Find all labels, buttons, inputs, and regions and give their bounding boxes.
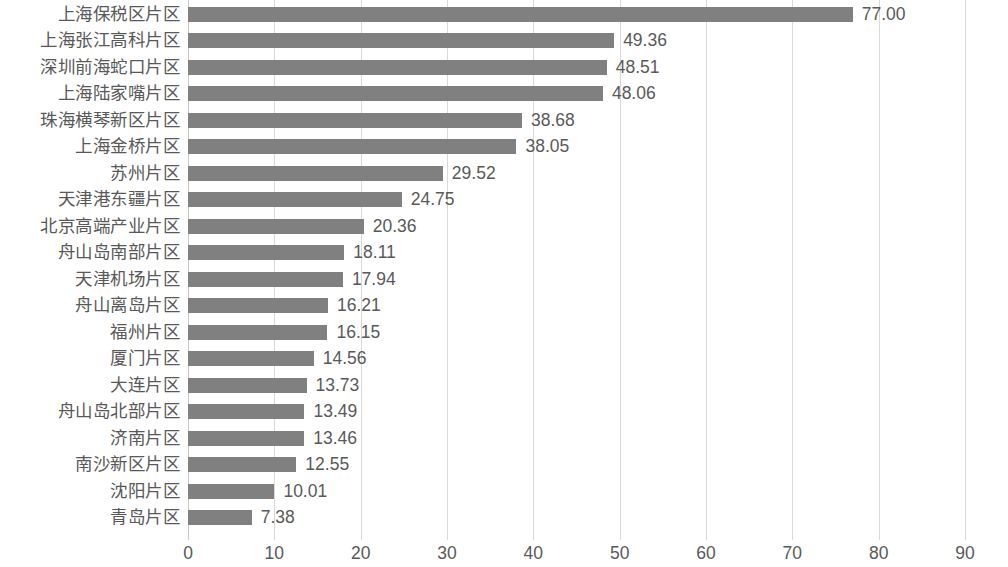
category-label: 舟山离岛片区 [75,293,182,320]
bar-value-label: 24.75 [411,191,455,209]
bar-row: 38.05 [188,134,965,161]
category-label: 珠海横琴新区片区 [40,107,182,134]
plot-area: 77.0049.3648.5148.0638.6838.0529.5224.75… [188,0,965,540]
x-tick-label: 50 [610,545,629,563]
bar [188,60,607,75]
bar-row: 16.21 [188,293,965,320]
category-label: 上海金桥片区 [75,134,182,161]
category-label: 福州片区 [110,319,182,346]
bar-row: 13.46 [188,425,965,452]
category-label: 大连片区 [110,372,182,399]
bar [188,139,516,154]
bar-row: 17.94 [188,266,965,293]
bar-row: 38.68 [188,107,965,134]
bar-value-label: 10.01 [283,483,327,501]
bar-value-label: 38.68 [531,112,575,130]
category-label: 天津港东疆片区 [58,187,183,214]
bar [188,457,296,472]
category-label: 上海保税区片区 [58,1,183,28]
bar [188,7,853,22]
bar [188,33,614,48]
bar-value-label: 7.38 [261,509,295,527]
bar-value-label: 13.73 [316,377,360,395]
bar-series: 77.0049.3648.5148.0638.6838.0529.5224.75… [188,0,965,540]
category-label: 上海张江高科片区 [40,28,182,55]
category-label: 厦门片区 [110,346,182,373]
bar [188,272,343,287]
bar [188,431,304,446]
x-tick-label: 20 [351,545,370,563]
bar-value-label: 49.36 [623,32,667,50]
bar-row: 13.73 [188,372,965,399]
x-tick-label: 0 [183,545,193,563]
bar-row: 77.00 [188,1,965,28]
bar [188,166,443,181]
category-label: 天津机场片区 [75,266,182,293]
bar-row: 24.75 [188,187,965,214]
bar-value-label: 17.94 [352,271,396,289]
bar [188,325,327,340]
bar [188,192,402,207]
bar-value-label: 13.46 [313,430,357,448]
bar-row: 18.11 [188,240,965,267]
bar [188,351,314,366]
bar-row: 48.06 [188,81,965,108]
bar [188,484,274,499]
x-tick-label: 10 [265,545,284,563]
bar-value-label: 16.15 [336,324,380,342]
category-axis: 上海保税区片区上海张江高科片区深圳前海蛇口片区上海陆家嘴片区珠海横琴新区片区上海… [0,0,182,540]
bar-value-label: 13.49 [313,403,357,421]
gridline [965,0,966,540]
bar-row: 20.36 [188,213,965,240]
bar-value-label: 16.21 [337,297,381,315]
bar-value-label: 14.56 [323,350,367,368]
bar-row: 12.55 [188,452,965,479]
x-tick-label: 30 [437,545,456,563]
bar-value-label: 77.00 [862,6,906,24]
category-label: 南沙新区片区 [75,452,182,479]
bar-chart: 上海保税区片区上海张江高科片区深圳前海蛇口片区上海陆家嘴片区珠海横琴新区片区上海… [0,0,1008,567]
bar-value-label: 18.11 [353,244,396,262]
bar-value-label: 29.52 [452,165,496,183]
bar-row: 49.36 [188,28,965,55]
x-tick-label: 90 [955,545,974,563]
category-label: 济南片区 [110,425,182,452]
bar-row: 7.38 [188,505,965,532]
bar-row: 14.56 [188,346,965,373]
bar [188,404,304,419]
category-label: 沈阳片区 [110,478,182,505]
category-label: 上海陆家嘴片区 [58,81,183,108]
x-tick-label: 40 [524,545,543,563]
bar [188,219,364,234]
x-tick-label: 60 [696,545,715,563]
bar-row: 10.01 [188,478,965,505]
x-axis: 0102030405060708090 [188,540,965,567]
bar-row: 48.51 [188,54,965,81]
bar [188,378,307,393]
bar-value-label: 20.36 [373,218,417,236]
x-tick-label: 70 [783,545,802,563]
bar-value-label: 12.55 [305,456,349,474]
bar-row: 29.52 [188,160,965,187]
category-label: 北京高端产业片区 [40,213,182,240]
bar [188,113,522,128]
category-label: 舟山岛北部片区 [58,399,183,426]
bar-value-label: 48.51 [616,59,660,77]
category-label: 青岛片区 [110,505,182,532]
bar [188,245,344,260]
bar-value-label: 38.05 [525,138,569,156]
bar-value-label: 48.06 [612,85,656,103]
bar-row: 13.49 [188,399,965,426]
bar [188,86,603,101]
bar-row: 16.15 [188,319,965,346]
x-tick-label: 80 [869,545,888,563]
bar [188,298,328,313]
bar [188,510,252,525]
category-label: 舟山岛南部片区 [58,240,183,267]
category-label: 苏州片区 [110,160,182,187]
category-label: 深圳前海蛇口片区 [40,54,182,81]
